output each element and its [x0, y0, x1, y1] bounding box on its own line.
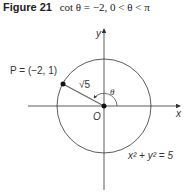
circle-equation: x² + y² = 5: [127, 150, 173, 161]
point-p-label: P = (−2, 1): [10, 65, 57, 76]
origin-label: O: [93, 111, 101, 122]
y-axis-label: y: [95, 28, 102, 39]
angle-label: θ: [110, 87, 115, 97]
origin-dot: [102, 104, 107, 109]
x-axis-label: x: [175, 108, 182, 119]
point-p-dot: [61, 82, 66, 87]
radius-label: √5: [79, 79, 90, 90]
unit-circle-diagram: y x O P = (−2, 1) √5 θ x² + y² = 5: [0, 0, 193, 192]
